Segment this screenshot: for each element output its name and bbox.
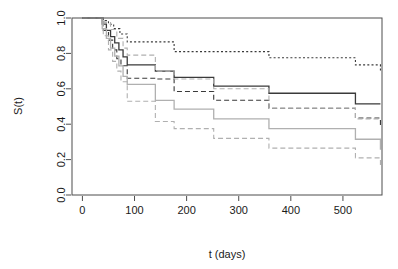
x-axis-title: t (days) [209,248,246,260]
x-axis-tick-label: 100 [125,204,143,216]
y-axis-tick-label: 0.6 [55,81,67,96]
y-axis-tick-label: 0.8 [55,46,67,61]
plot-background [0,0,398,269]
y-axis-tick-label: 0.2 [55,152,67,167]
survival-plot-canvas: 0100200300400500 0.00.20.40.60.81.0 t (d… [0,0,398,269]
y-axis-tick-label: 0.0 [55,187,67,202]
survival-plot: 0100200300400500 0.00.20.40.60.81.0 t (d… [0,0,398,269]
y-axis-tick-label: 1.0 [55,10,67,25]
x-axis-tick-label: 500 [334,204,352,216]
x-axis-tick-label: 200 [177,204,195,216]
x-axis-tick-label: 300 [230,204,248,216]
y-axis-title: S(t) [12,97,24,115]
x-axis-tick-label: 0 [79,204,85,216]
x-axis-tick-label: 400 [282,204,300,216]
y-axis-tick-label: 0.4 [55,117,67,132]
